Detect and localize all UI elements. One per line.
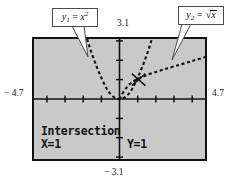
callout-pointer-y1 <box>72 26 88 57</box>
callout-y1-sub: 1 <box>66 16 70 24</box>
callout-pointer-y2 <box>172 24 191 60</box>
callout-y2-text: y2 = √x <box>186 10 216 22</box>
radical-bar <box>210 10 217 11</box>
callout-leader-lines <box>0 0 239 186</box>
callout-y1-eq: = <box>72 11 78 22</box>
callout-label-y2: y2 = √x <box>178 6 224 25</box>
callout-label-y1: y1 = x2 <box>52 8 98 27</box>
callout-y1-text: y1 = x2 <box>62 11 89 24</box>
callout-y2-sub: 2 <box>191 14 195 22</box>
callout-y1-sup: 2 <box>85 10 89 18</box>
radical-icon: √x <box>205 10 216 20</box>
callout-y2-eq: = <box>197 9 203 20</box>
